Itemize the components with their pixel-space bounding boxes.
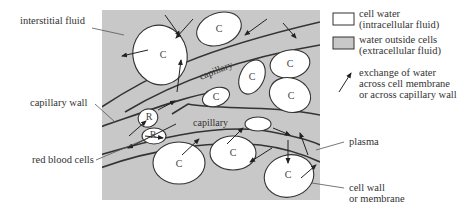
legend-label: (intracellular fluid) — [359, 19, 440, 31]
legend-label: or across capillary wall — [359, 89, 457, 100]
legend-swatch-extracellular — [333, 37, 354, 49]
label-interstitial-fluid: interstitial fluid — [20, 15, 86, 26]
capillary-label-lower: capillary — [193, 117, 228, 128]
rbc-letter: R — [150, 129, 157, 140]
label-cell-wall-line2: or membrane — [349, 193, 405, 204]
cell-plasma-small — [245, 117, 271, 131]
legend-label: exchange of water — [359, 67, 436, 78]
cell-letter: C — [230, 147, 237, 158]
label-cell-wall: cell wall — [349, 182, 385, 193]
label-capillary-wall: capillary wall — [30, 97, 88, 108]
cell-letter: C — [213, 91, 220, 102]
cell-letter: C — [249, 71, 256, 82]
legend: cell water (intracellular fluid) water o… — [333, 8, 457, 100]
cell-letter: C — [160, 49, 167, 60]
label-red-blood-cells: red blood cells — [32, 154, 94, 165]
legend-arrow-icon — [339, 73, 351, 92]
cell-letter: C — [285, 169, 292, 180]
leader-line — [316, 142, 344, 150]
legend-label: (extracellular fluid) — [359, 45, 441, 57]
rbc-letter: R — [146, 111, 153, 122]
cell-letter: C — [287, 58, 294, 69]
legend-swatch-intracellular — [333, 13, 354, 25]
legend-label: across cell membrane — [359, 78, 450, 89]
body-fluid-diagram: C C C C C C C C C R R capillary capillar… — [0, 0, 471, 212]
legend-label: cell water — [359, 8, 401, 19]
cell-letter: C — [176, 158, 183, 169]
label-plasma: plasma — [349, 136, 379, 147]
legend-label: water outside cells — [359, 34, 437, 45]
cell-letter: C — [216, 23, 223, 34]
cell-letter: C — [288, 90, 295, 101]
